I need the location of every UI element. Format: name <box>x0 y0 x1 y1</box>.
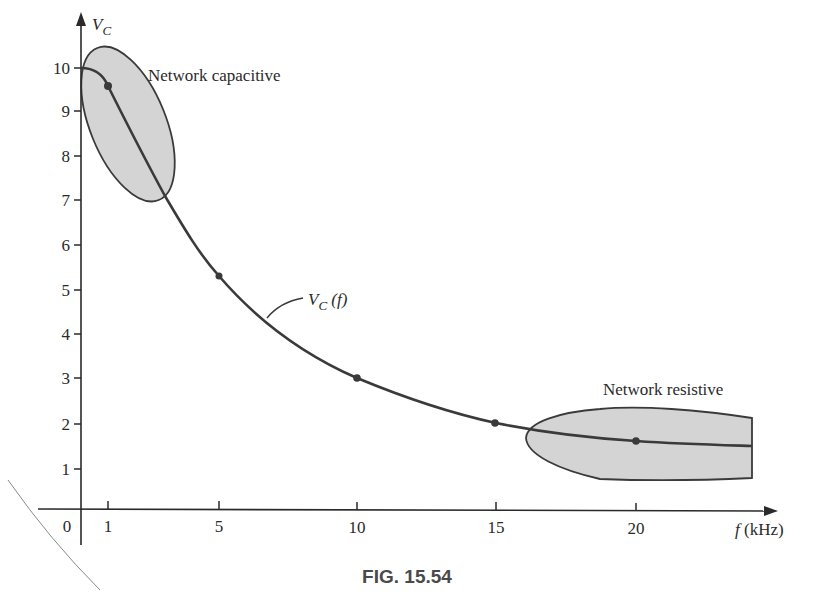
x-axis-arrow-icon <box>764 506 778 516</box>
y-ticks <box>74 68 81 469</box>
marker-f5 <box>216 273 223 280</box>
curve-label: VC (f) <box>308 290 348 313</box>
chart-canvas: 1 2 3 4 5 6 7 8 9 10 0 1 5 10 15 20 VC f… <box>0 0 814 608</box>
x-tick-labels: 0 1 5 10 15 20 <box>63 517 645 538</box>
x-axis-title: f (kHz) <box>735 520 784 539</box>
resistive-label: Network resistive <box>603 380 723 399</box>
data-markers <box>104 82 640 445</box>
svg-text:7: 7 <box>62 191 71 210</box>
marker-f1 <box>104 82 112 90</box>
y-tick-labels: 1 2 3 4 5 6 7 8 9 10 <box>53 59 71 479</box>
svg-text:10: 10 <box>53 59 70 78</box>
y-axis-title: VC <box>92 15 111 38</box>
curve-label-leader <box>267 298 303 318</box>
y-axis-arrow-icon <box>76 12 86 26</box>
svg-text:1: 1 <box>104 517 113 536</box>
capacitive-label: Network capacitive <box>148 66 281 85</box>
svg-text:8: 8 <box>62 147 71 166</box>
svg-text:5: 5 <box>62 281 71 300</box>
marker-f10 <box>353 374 361 382</box>
svg-text:0: 0 <box>63 517 72 536</box>
svg-text:3: 3 <box>62 369 71 388</box>
svg-text:1: 1 <box>62 460 71 479</box>
svg-text:4: 4 <box>62 325 71 344</box>
svg-text:2: 2 <box>62 415 71 434</box>
svg-text:5: 5 <box>215 517 224 536</box>
svg-text:6: 6 <box>62 236 71 255</box>
svg-text:20: 20 <box>628 519 645 538</box>
svg-text:9: 9 <box>62 102 71 121</box>
x-axis <box>38 509 765 511</box>
marker-f15 <box>491 419 499 427</box>
svg-text:10: 10 <box>349 518 366 537</box>
figure-caption: FIG. 15.54 <box>0 566 814 588</box>
svg-text:15: 15 <box>488 518 505 537</box>
marker-f20 <box>632 437 640 445</box>
